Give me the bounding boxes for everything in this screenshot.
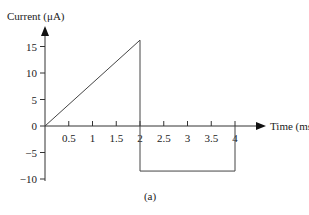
series-line-current [45, 40, 235, 171]
y-tick-label: −10 [20, 173, 38, 185]
x-axis-arrow-icon [256, 122, 266, 130]
y-tick-label: 15 [26, 41, 38, 53]
figure-caption: (a) [144, 190, 157, 203]
x-tick-label: 1 [90, 132, 96, 144]
y-axis-label: Current (μA) [7, 10, 65, 23]
y-tick-label: 10 [26, 67, 38, 79]
current-time-chart: Current (μA)Time (ms)0.511.522.533.54151… [0, 0, 309, 215]
y-axis-arrow-icon [41, 26, 49, 36]
y-tick-label: 0 [32, 120, 38, 132]
x-tick-label: 2.5 [157, 132, 171, 144]
y-tick-label: −5 [25, 147, 37, 159]
x-tick-label: 0.5 [62, 132, 76, 144]
x-axis-label: Time (ms) [270, 120, 309, 133]
x-tick-label: 1.5 [109, 132, 123, 144]
x-tick-label: 3 [185, 132, 191, 144]
x-tick-label: 3.5 [204, 132, 218, 144]
y-tick-label: 5 [32, 94, 38, 106]
